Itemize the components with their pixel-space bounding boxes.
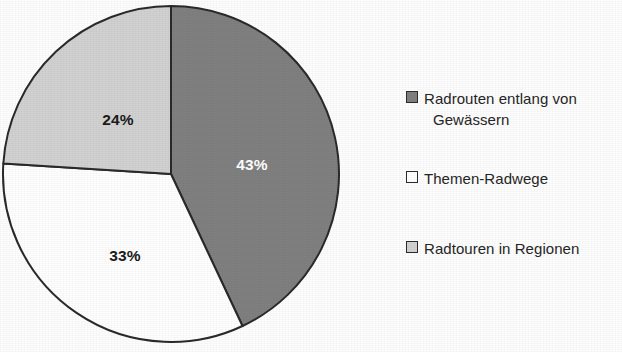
legend-label-line1: Themen-Radwege	[424, 170, 548, 187]
legend-item-3[interactable]: Radtouren in Regionen	[406, 238, 579, 259]
white-swatch	[406, 171, 418, 183]
legend-label-line2: Gewässern	[424, 109, 577, 130]
legend-item-2[interactable]: Themen-Radwege	[406, 168, 548, 189]
legend-item-label-2: Themen-Radwege	[424, 168, 548, 189]
light-gray-swatch	[406, 241, 418, 253]
pie-slice-value-label-2: 33%	[109, 247, 141, 265]
pie-slice-3[interactable]	[3, 6, 171, 174]
dark-gray-swatch	[406, 91, 418, 103]
legend-item-label-3: Radtouren in Regionen	[424, 238, 579, 259]
pie-slice-value-label-1: 43%	[236, 156, 268, 174]
legend-item-label-1: Radrouten entlang vonGewässern	[424, 88, 577, 130]
pie-svg	[0, 0, 380, 352]
chart-canvas: 43%33%24% Radrouten entlang vonGewässern…	[0, 0, 622, 352]
legend-item-1[interactable]: Radrouten entlang vonGewässern	[406, 88, 577, 130]
legend-label-line1: Radrouten entlang von	[424, 90, 577, 107]
pie-chart: 43%33%24%	[0, 0, 380, 352]
pie-slice-value-label-3: 24%	[102, 111, 134, 129]
legend-label-line1: Radtouren in Regionen	[424, 240, 579, 257]
